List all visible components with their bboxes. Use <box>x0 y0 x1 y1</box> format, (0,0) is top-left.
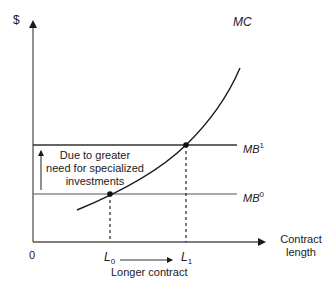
equilibrium-point-0 <box>107 191 113 197</box>
equilibrium-point-1 <box>183 142 189 148</box>
origin-label: 0 <box>29 249 35 262</box>
y-axis-label: $ <box>13 14 20 27</box>
longer-contract-label: Longer contract <box>111 266 187 279</box>
shift-annotation: Due to greater need for specialized inve… <box>36 149 154 188</box>
mc-curve <box>77 68 240 210</box>
mb0-label: MB0 <box>243 188 264 205</box>
x-axis-label: Contract length <box>276 233 326 259</box>
mb1-label: MB1 <box>243 139 264 156</box>
mc-label: MC <box>233 16 252 29</box>
